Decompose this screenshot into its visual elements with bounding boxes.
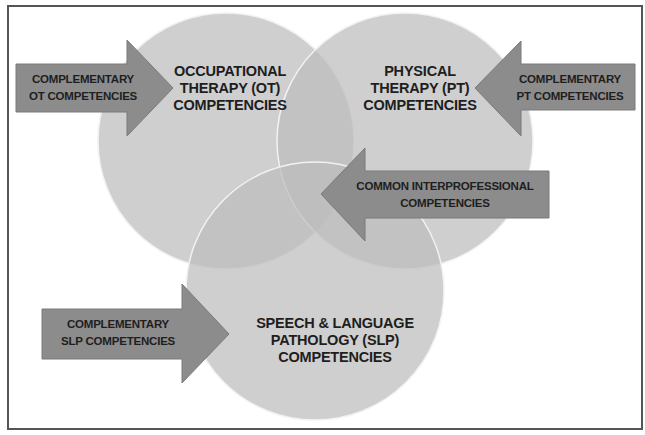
common-arrow-line-1: COMMON INTERPROFESSIONAL (345, 178, 545, 195)
pt-arrow-line-1: COMPLEMENTARY (505, 71, 635, 88)
pt-circle-label: PHYSICAL THERAPY (PT) COMPETENCIES (350, 63, 490, 114)
ot-label-line-2: THERAPY (OT) (160, 80, 300, 97)
pt-label-line-3: COMPETENCIES (350, 97, 490, 114)
slp-arrow-label: COMPLEMENTARY SLP COMPETENCIES (43, 316, 193, 350)
pt-label-line-1: PHYSICAL (350, 63, 490, 80)
common-arrow-label: COMMON INTERPROFESSIONAL COMPETENCIES (345, 178, 545, 212)
common-arrow-line-2: COMPETENCIES (345, 195, 545, 212)
ot-arrow-label: COMPLEMENTARY OT COMPETENCIES (18, 71, 148, 105)
slp-label-line-1: SPEECH & LANGUAGE (235, 315, 435, 332)
pt-arrow-label: COMPLEMENTARY PT COMPETENCIES (505, 71, 635, 105)
ot-label-line-1: OCCUPATIONAL (160, 63, 300, 80)
pt-label-line-2: THERAPY (PT) (350, 80, 490, 97)
venn-diagram (0, 0, 645, 435)
slp-label-line-2: PATHOLOGY (SLP) (235, 332, 435, 349)
ot-circle-label: OCCUPATIONAL THERAPY (OT) COMPETENCIES (160, 63, 300, 114)
ot-arrow-line-2: OT COMPETENCIES (18, 88, 148, 105)
slp-circle-label: SPEECH & LANGUAGE PATHOLOGY (SLP) COMPET… (235, 315, 435, 366)
pt-arrow-line-2: PT COMPETENCIES (505, 88, 635, 105)
ot-arrow-line-1: COMPLEMENTARY (18, 71, 148, 88)
ot-label-line-3: COMPETENCIES (160, 97, 300, 114)
slp-label-line-3: COMPETENCIES (235, 349, 435, 366)
slp-arrow-line-2: SLP COMPETENCIES (43, 333, 193, 350)
slp-arrow-line-1: COMPLEMENTARY (43, 316, 193, 333)
